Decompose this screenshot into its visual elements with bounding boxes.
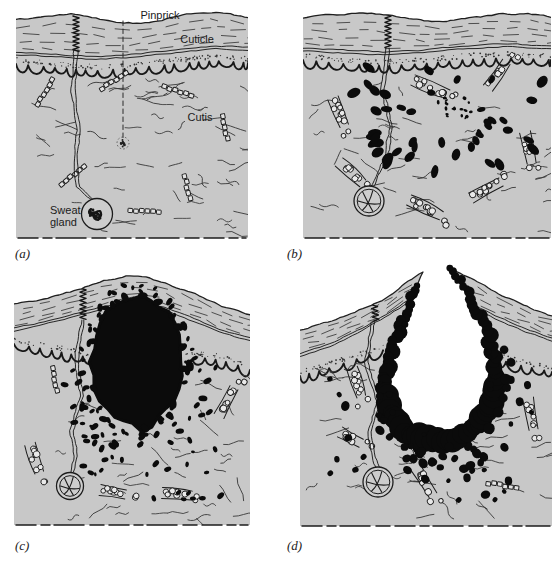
panel-c-drawing <box>14 276 250 531</box>
sweat-gland-icon <box>354 186 384 216</box>
sweat-gland-label-line2: gland <box>50 216 77 228</box>
panel-b-drawing <box>303 13 551 238</box>
pinprick-label: Pinprick <box>140 9 180 21</box>
panel-c-illustration <box>14 266 250 534</box>
panel-d-illustration <box>300 262 552 534</box>
sweat-gland-icon <box>82 199 113 230</box>
sweat-gland-icon <box>363 467 393 497</box>
cuticle-label: Cuticle <box>180 33 214 45</box>
panel-a-illustration: Pinprick Cuticle Cutis Sweat gland <box>16 2 248 242</box>
sweat-gland-icon <box>57 473 84 500</box>
sweat-gland-label-line1: Sweat <box>50 204 81 216</box>
panel-letter-a: (a) <box>15 246 30 262</box>
cutis-label: Cutis <box>187 111 213 123</box>
panel-letter-d: (d) <box>287 538 302 554</box>
panel-b-illustration <box>303 2 551 242</box>
panel-d-drawing <box>300 265 552 526</box>
figure-page: Pinprick Cuticle Cutis Sweat gland (a) (… <box>0 0 560 563</box>
panel-letter-c: (c) <box>15 538 29 554</box>
panel-letter-b: (b) <box>287 246 302 262</box>
